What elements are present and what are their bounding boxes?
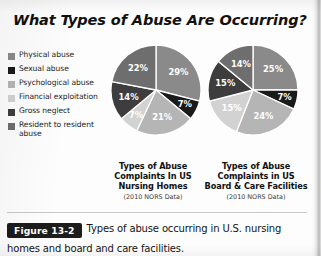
legend-label-physical-abuse: Physical abuse (19, 50, 74, 59)
chart-caption-nursing-line3: Nursing Homes (118, 181, 187, 191)
legend-item-physical-abuse: Physical abuse (8, 50, 106, 60)
pie-nursing-label-4: 7% (129, 110, 144, 120)
legend-label-gross-neglect: Gross neglect (19, 106, 70, 115)
pie-board-label-1: 25% (263, 64, 284, 74)
pie-nursing-label-5: 14% (119, 92, 140, 102)
legend-swatch-resident-to-resident-abuse (8, 123, 15, 130)
pie-chart-nursing-homes: 29%7%21%7%14%22% (110, 44, 202, 136)
pie-board-label-3: 24% (253, 111, 274, 121)
page-edge-shadow (312, 0, 321, 256)
pie-board-label-5: 15% (215, 78, 236, 88)
figure-divider (7, 212, 307, 213)
chart-caption-board-line3: Board & Care Facilities (205, 181, 308, 191)
pie-board-label-2: 7% (278, 92, 293, 102)
chart-legend: Physical abuse Sexual abuse Psychologica… (8, 50, 106, 143)
pie-nursing-label-3: 21% (152, 112, 173, 122)
figure-number-badge: Figure 13-2 (7, 223, 82, 238)
pie-chart-board-and-care-svg: 25%7%24%15%15%14% (207, 44, 299, 136)
legend-swatch-gross-neglect (8, 109, 15, 116)
chart-source-nursing: (2010 NORS Data) (104, 193, 202, 202)
legend-swatch-psychological-abuse (8, 81, 15, 88)
legend-label-psychological-abuse: Psychological abuse (19, 78, 94, 87)
pie-chart-board-and-care: 25%7%24%15%15%14% (207, 44, 299, 136)
legend-label-resident-to-resident-abuse: Resident to resident abuse (19, 120, 106, 139)
legend-item-financial-exploitation: Financial exploitation (8, 92, 106, 102)
figure-caption-block: Figure 13-2Types of abuse occurring in U… (7, 218, 310, 256)
figure-page: What Types of Abuse Are Occurring? Physi… (0, 0, 321, 256)
pie-nursing-label-6: 22% (128, 63, 149, 73)
legend-label-financial-exploitation: Financial exploitation (19, 92, 98, 101)
chart-caption-board-and-care: Types of Abuse Complaints in US Board & … (198, 161, 314, 202)
chart-caption-nursing-line1: Types of Abuse (119, 161, 187, 171)
legend-swatch-financial-exploitation (8, 95, 15, 102)
chart-source-board: (2010 NORS Data) (198, 193, 314, 202)
legend-item-sexual-abuse: Sexual abuse (8, 64, 106, 74)
legend-item-resident-to-resident-abuse: Resident to resident abuse (8, 120, 106, 139)
chart-caption-board-line1: Types of Abuse (222, 161, 290, 171)
pie-chart-nursing-homes-svg: 29%7%21%7%14%22% (110, 44, 202, 136)
pie-board-label-4: 15% (222, 103, 243, 113)
pie-nursing-label-2: 7% (178, 99, 193, 109)
figure-heading: What Types of Abuse Are Occurring? (13, 12, 307, 28)
legend-swatch-physical-abuse (8, 53, 15, 60)
legend-swatch-sexual-abuse (8, 67, 15, 74)
legend-item-psychological-abuse: Psychological abuse (8, 78, 106, 88)
chart-caption-board-line2: Complaints in US (217, 171, 294, 181)
legend-item-gross-neglect: Gross neglect (8, 106, 106, 116)
chart-caption-nursing-line2: Complaints In US (114, 171, 191, 181)
chart-caption-nursing-homes: Types of Abuse Complaints In US Nursing … (104, 161, 202, 202)
pie-board-label-6: 14% (231, 59, 252, 69)
legend-label-sexual-abuse: Sexual abuse (19, 64, 69, 73)
pie-nursing-label-1: 29% (168, 67, 189, 77)
